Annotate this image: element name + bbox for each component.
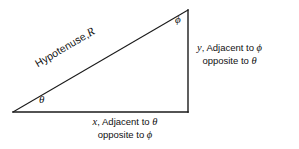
vertical-side-label-line1: y, Adjacent to ϕ: [197, 42, 262, 55]
vertical-side-line1-text: , Adjacent to: [202, 42, 257, 53]
horizontal-side-line2-greek: ϕ: [147, 129, 152, 140]
horizontal-side-label: x, Adjacent to θ opposite to ϕ: [68, 116, 182, 141]
vertical-side-label-line2: opposite to θ: [197, 55, 262, 68]
vertical-side-line1-greek: ϕ: [257, 42, 262, 53]
horizontal-side-label-line1: x, Adjacent to θ: [68, 116, 182, 129]
angle-label-theta: θ: [39, 94, 44, 105]
horizontal-side-line1-text: , Adjacent to: [97, 116, 152, 127]
vertical-side-line2-greek: θ: [252, 55, 257, 66]
horizontal-side-label-line2: opposite to ϕ: [68, 129, 182, 142]
trigonometry-figure: θ ϕ Hypotenuse,R y, Adjacent to ϕ opposi…: [0, 0, 299, 149]
vertical-side-label: y, Adjacent to ϕ opposite to θ: [197, 42, 262, 67]
angle-label-phi: ϕ: [175, 14, 181, 25]
vertical-side-line2-text: opposite to: [202, 55, 251, 66]
horizontal-side-line2-text: opposite to: [98, 129, 147, 140]
horizontal-side-line1-greek: θ: [152, 116, 157, 127]
